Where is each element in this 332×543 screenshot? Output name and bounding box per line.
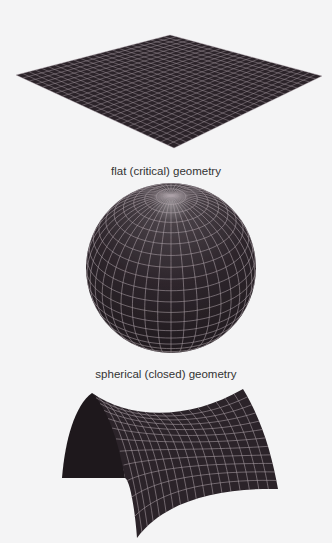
flat-geometry-caption: flat (critical) geometry	[0, 165, 332, 177]
spherical-geometry-caption: spherical (closed) geometry	[0, 368, 332, 380]
sphere	[86, 183, 256, 353]
geometry-diagram	[0, 0, 332, 543]
saddle-surface	[62, 389, 278, 538]
flat-plane	[16, 35, 322, 148]
